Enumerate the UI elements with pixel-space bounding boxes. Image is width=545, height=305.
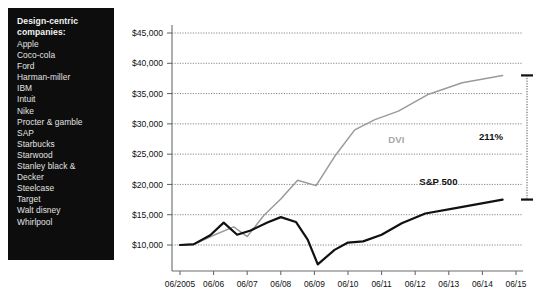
x-axis-tick-label: 06/13 <box>438 279 459 289</box>
series-labels: DVIS&P 500 <box>388 134 457 187</box>
y-axis-tick-labels: $45,000$40,000$35,000$30,000$25,000$20,0… <box>132 28 172 250</box>
x-axis-tick-label: 06/07 <box>237 279 258 289</box>
series-line-dvi <box>180 75 503 245</box>
x-axis-tick-label: 06/10 <box>338 279 359 289</box>
x-axis-tick-label: 06/08 <box>270 279 291 289</box>
y-axis-tick-label: $25,000 <box>132 149 163 159</box>
x-axis-tick-label: 06/12 <box>405 279 426 289</box>
y-axis-tick-label: $20,000 <box>132 180 163 190</box>
series-label-sp500: S&P 500 <box>419 176 457 187</box>
y-axis-tick-label: $30,000 <box>132 119 163 129</box>
y-axis-tick-label: $45,000 <box>132 28 163 38</box>
x-axis-tick-labels: 06/200506/0606/0706/0806/0906/1006/1106/… <box>165 271 527 289</box>
chart-svg: $45,000$40,000$35,000$30,000$25,000$20,0… <box>0 0 545 305</box>
gap-annotation: 211% <box>479 75 533 199</box>
series-line-s-p-500 <box>180 200 503 265</box>
x-axis-tick-label: 06/14 <box>472 279 493 289</box>
y-axis-tick-label: $15,000 <box>132 210 163 220</box>
x-axis-tick-label: 06/11 <box>371 279 392 289</box>
y-axis-tick-label: $10,000 <box>132 240 163 250</box>
gap-percentage-label: 211% <box>479 131 503 142</box>
y-axis-tick-label: $40,000 <box>132 58 163 68</box>
series-label-dvi: DVI <box>388 134 404 145</box>
axes <box>172 25 523 271</box>
y-axis-tick-label: $35,000 <box>132 89 163 99</box>
x-axis-tick-label: 06/15 <box>506 279 527 289</box>
x-axis-tick-label: 06/09 <box>304 279 325 289</box>
data-series <box>180 75 503 264</box>
x-axis-tick-label: 06/06 <box>203 279 224 289</box>
x-axis-tick-label: 06/2005 <box>165 279 196 289</box>
line-chart: $45,000$40,000$35,000$30,000$25,000$20,0… <box>0 0 545 305</box>
